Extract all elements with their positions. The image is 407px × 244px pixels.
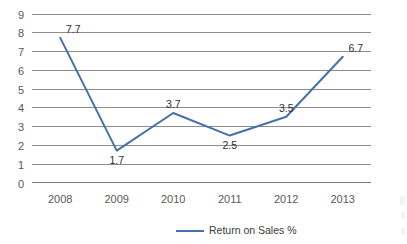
data-point-labels: 7.71.73.72.53.56.7 bbox=[66, 23, 363, 166]
gridlines bbox=[32, 15, 371, 165]
data-label-2009: 1.7 bbox=[109, 154, 124, 166]
series-line-return-on-sales bbox=[60, 38, 343, 151]
x-tick-2012: 2012 bbox=[274, 193, 298, 205]
y-tick-4: 4 bbox=[18, 102, 24, 114]
x-tick-2009: 2009 bbox=[105, 193, 129, 205]
edge-artifact-top bbox=[400, 196, 405, 205]
x-tick-2011: 2011 bbox=[218, 193, 242, 205]
legend-label-return-on-sales: Return on Sales % bbox=[209, 224, 297, 236]
data-label-2010: 3.7 bbox=[166, 98, 181, 110]
x-tick-2010: 2010 bbox=[161, 193, 185, 205]
y-tick-7: 7 bbox=[18, 46, 24, 58]
y-tick-2: 2 bbox=[18, 140, 24, 152]
data-label-2013: 6.7 bbox=[348, 42, 363, 54]
data-label-2008: 7.7 bbox=[66, 23, 81, 35]
y-tick-1: 1 bbox=[18, 159, 24, 171]
y-axis-tick-labels: 0123456789 bbox=[18, 9, 24, 190]
x-axis-tick-labels: 200820092010201120122013 bbox=[48, 193, 355, 205]
edge-artifact-middle bbox=[401, 212, 405, 219]
chart-plot-area: 0123456789 200820092010201120122013 7.71… bbox=[0, 0, 407, 244]
chart-legend: Return on Sales % bbox=[176, 224, 297, 236]
data-label-2011: 2.5 bbox=[222, 139, 237, 151]
y-tick-6: 6 bbox=[18, 65, 24, 77]
data-label-2012: 3.5 bbox=[279, 102, 294, 114]
edge-artifact-bottom bbox=[401, 228, 405, 235]
return-on-sales-line-chart: 0123456789 200820092010201120122013 7.71… bbox=[0, 0, 407, 244]
y-tick-9: 9 bbox=[18, 9, 24, 21]
y-tick-0: 0 bbox=[18, 178, 24, 190]
y-tick-8: 8 bbox=[18, 27, 24, 39]
y-tick-5: 5 bbox=[18, 84, 24, 96]
x-tick-2008: 2008 bbox=[48, 193, 72, 205]
y-tick-3: 3 bbox=[18, 121, 24, 133]
x-tick-2013: 2013 bbox=[331, 193, 355, 205]
